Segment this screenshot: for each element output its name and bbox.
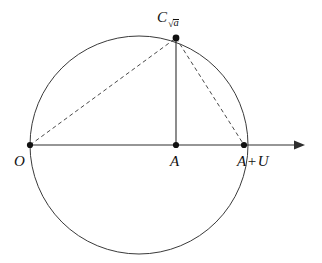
point-c-dot xyxy=(173,35,180,42)
point-a-plus-u-dot xyxy=(241,142,247,148)
point-a-dot xyxy=(173,142,179,148)
label-point-a-plus-u: A+U xyxy=(237,154,268,169)
sqrt-icon: √a xyxy=(168,18,179,29)
point-o-dot xyxy=(27,142,33,148)
label-point-a-text: A xyxy=(170,153,179,169)
label-a-plus-u-trail: U xyxy=(258,153,269,169)
label-point-c-main: C xyxy=(157,9,167,25)
label-point-a: A xyxy=(170,154,179,169)
label-a-plus-u-operator: + xyxy=(246,153,257,169)
label-point-c-subscript: √a xyxy=(168,17,179,28)
geometry-figure xyxy=(0,0,322,263)
label-point-c: C√a xyxy=(157,10,178,25)
radical-sign-glyph: √ xyxy=(168,19,174,30)
dashed-chord-o-to-c xyxy=(30,38,176,145)
axis-arrow-icon xyxy=(294,141,305,150)
label-point-o: O xyxy=(14,154,25,169)
label-point-o-text: O xyxy=(14,153,25,169)
diagram-canvas: C√a O A A+U xyxy=(0,0,322,263)
label-a-plus-u-lead: A xyxy=(237,153,246,169)
radical-overbar xyxy=(173,19,179,20)
